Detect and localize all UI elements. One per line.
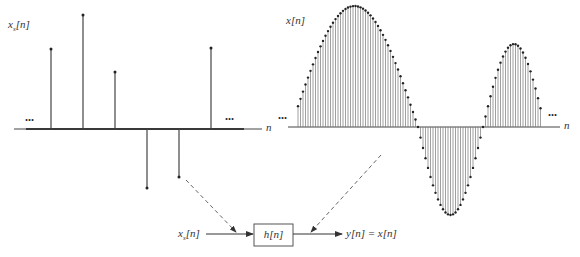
input-signal-label: xs[n] [177, 227, 200, 242]
block-diagram: xs[n] h[n] y[n] = x[n] [177, 155, 397, 246]
interpolation-figure: xs[n] ... ... n x[n] ... ... n xs[n] h[n… [0, 0, 580, 257]
right-ellipsis-right: ... [548, 105, 557, 119]
right-stems [297, 5, 542, 216]
output-signal-label: y[n] = x[n] [345, 227, 397, 239]
left-plot-label: xs[n] [7, 18, 30, 33]
filter-label: h[n] [264, 228, 284, 240]
right-axis-label: n [564, 119, 570, 131]
dashed-connector-input [186, 180, 236, 232]
dashed-connector-output [311, 155, 381, 232]
right-plot-label: x[n] [285, 14, 305, 26]
right-stem-plot: x[n] ... ... n [278, 5, 570, 216]
left-stem-plot: xs[n] ... ... n [7, 14, 272, 190]
left-axis-label: n [266, 121, 272, 133]
left-nonzero-stems [50, 14, 213, 190]
left-ellipsis-left: ... [25, 110, 34, 124]
left-ellipsis-right: ... [225, 109, 234, 123]
right-ellipsis-left: ... [278, 108, 287, 122]
